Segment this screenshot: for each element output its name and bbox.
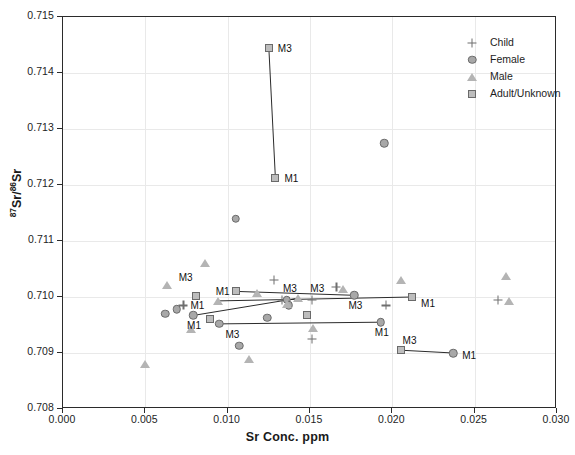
gridline-horizontal	[63, 241, 555, 242]
triangle-marker	[140, 360, 150, 368]
y-axis-tick-label: 0.713	[2, 121, 54, 133]
x-axis-tick-label: 0.000	[32, 413, 92, 425]
data-point-label: M3	[179, 271, 193, 282]
y-axis-tick	[57, 184, 62, 185]
y-axis-title: 87Sr/86Sr	[8, 133, 24, 253]
triangle-marker	[467, 73, 477, 81]
triangle-marker	[338, 285, 348, 293]
data-point-label: M3	[283, 283, 297, 294]
x-axis-tick-label: 0.025	[444, 413, 504, 425]
circle-marker	[215, 320, 224, 329]
square-marker	[206, 315, 214, 323]
triangle-marker	[213, 297, 223, 305]
data-point-label: M1	[216, 285, 230, 296]
square-marker	[408, 293, 416, 301]
gridline-horizontal	[63, 129, 555, 130]
x-axis-tick-label: 0.005	[114, 413, 174, 425]
x-axis-tick-label: 0.030	[526, 413, 575, 425]
triangle-marker	[282, 300, 292, 308]
connector-line	[269, 48, 276, 178]
gridline-vertical	[392, 17, 393, 407]
triangle-marker	[396, 276, 406, 284]
y-axis-tick-label: 0.709	[2, 345, 54, 357]
y-axis-title-sup2: 86	[10, 182, 24, 191]
x-axis-tick-label: 0.020	[361, 413, 421, 425]
x-axis-tick-label: 0.015	[279, 413, 339, 425]
triangle-marker	[501, 272, 511, 280]
circle-marker	[232, 214, 241, 223]
x-axis-title: Sr Conc. ppm	[0, 430, 575, 444]
data-point-label: M1	[190, 299, 204, 310]
connector-line	[219, 322, 380, 324]
chart-legend: ChildFemaleMaleAdult/Unknown	[468, 34, 575, 102]
plus-marker	[307, 295, 316, 304]
plot-area: M3M1M3M1M1M1M3M3M3M3M1M1M3M1 ChildFemale…	[62, 16, 556, 408]
square-marker	[232, 287, 240, 295]
circle-marker	[449, 349, 458, 358]
data-point-label: M1	[284, 173, 298, 184]
plus-marker	[381, 301, 390, 310]
legend-item-label: Child	[490, 36, 514, 48]
circle-marker	[235, 341, 244, 350]
legend-item-label: Adult/Unknown	[490, 87, 561, 99]
gridline-horizontal	[63, 353, 555, 354]
triangle-marker	[293, 294, 303, 302]
square-marker	[303, 311, 311, 319]
gridline-vertical	[310, 17, 311, 407]
y-axis-tick-label: 0.708	[2, 401, 54, 413]
y-axis-tick-label: 0.710	[2, 289, 54, 301]
gridline-vertical	[228, 17, 229, 407]
triangle-marker	[200, 259, 210, 267]
y-axis-tick	[57, 16, 62, 17]
circle-marker	[161, 310, 170, 319]
square-marker	[271, 174, 279, 182]
triangle-marker	[162, 281, 172, 289]
circle-marker	[380, 139, 389, 148]
triangle-marker	[252, 289, 262, 297]
y-axis-title-end: Sr	[10, 169, 24, 182]
y-axis-tick-label: 0.714	[2, 65, 54, 77]
legend-item-label: Female	[490, 53, 525, 65]
triangle-marker	[244, 355, 254, 363]
y-axis-tick	[57, 72, 62, 73]
plus-marker	[493, 295, 502, 304]
x-axis-tick-label: 0.010	[197, 413, 257, 425]
plus-marker	[307, 335, 316, 344]
square-marker	[265, 44, 273, 52]
legend-item: Child	[468, 34, 575, 51]
legend-item-label: Male	[490, 70, 513, 82]
circle-marker	[263, 313, 272, 322]
data-point-label: M3	[278, 42, 292, 53]
gridline-vertical	[145, 17, 146, 407]
legend-item: Female	[468, 51, 575, 68]
y-axis-tick	[57, 128, 62, 129]
y-axis-tick	[57, 240, 62, 241]
data-point-label: M1	[187, 320, 201, 331]
data-point-label: M1	[375, 327, 389, 338]
circle-marker	[377, 318, 386, 327]
y-axis-tick	[57, 296, 62, 297]
y-axis-title-mid: Sr/	[10, 191, 24, 208]
legend-item: Adult/Unknown	[468, 85, 575, 102]
data-point-label: M3	[348, 300, 362, 311]
y-axis-tick-label: 0.715	[2, 9, 54, 21]
square-marker	[468, 90, 476, 98]
square-marker	[397, 346, 405, 354]
y-axis-title-sup1: 87	[10, 208, 24, 217]
data-point-label: M1	[421, 298, 435, 309]
triangle-marker	[308, 324, 318, 332]
scatter-chart-figure: M3M1M3M1M1M1M3M3M3M3M1M1M3M1 ChildFemale…	[0, 0, 575, 455]
data-point-label: M3	[310, 283, 324, 294]
circle-marker	[468, 55, 477, 64]
plus-marker	[468, 38, 477, 47]
circle-marker	[189, 311, 198, 320]
circle-marker	[350, 291, 359, 300]
triangle-marker	[504, 297, 514, 305]
data-point-label: M3	[225, 328, 239, 339]
plus-marker	[269, 276, 278, 285]
data-point-label: M3	[403, 335, 417, 346]
legend-item: Male	[468, 68, 575, 85]
gridline-horizontal	[63, 185, 555, 186]
data-point-label: M1	[462, 350, 476, 361]
circle-marker	[172, 305, 181, 314]
